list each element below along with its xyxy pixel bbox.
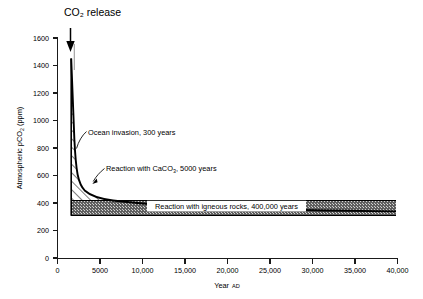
x-axis-title: YearAD [214, 281, 240, 290]
svg-text:Reaction with igneous rocks,: Reaction with igneous rocks, 400,000 yea… [155, 202, 298, 211]
svg-text:1000: 1000 [33, 116, 49, 125]
svg-text:40,000: 40,000 [387, 266, 409, 275]
svg-text:30,000: 30,000 [302, 266, 324, 275]
svg-text:35,000: 35,000 [344, 266, 366, 275]
svg-text:1400: 1400 [33, 61, 49, 70]
svg-text:400: 400 [37, 199, 49, 208]
svg-text:0: 0 [56, 266, 60, 275]
svg-text:0: 0 [45, 254, 49, 263]
co2-release-chart-figure: CO₂ release [0, 0, 423, 299]
svg-text:15,000: 15,000 [174, 266, 196, 275]
y-axis-title: Atmospheric pCO2 (ppm) [15, 107, 25, 190]
annotation-caco3-text: Reaction with CaCO3, 5000 years [106, 164, 217, 174]
svg-text:1200: 1200 [33, 89, 49, 98]
svg-text:20,000: 20,000 [217, 266, 239, 275]
svg-text:5000: 5000 [92, 266, 108, 275]
svg-text:1600: 1600 [33, 34, 49, 43]
svg-text:25,000: 25,000 [259, 266, 281, 275]
svg-text:800: 800 [37, 144, 49, 153]
svg-text:200: 200 [37, 226, 49, 235]
svg-text:600: 600 [37, 171, 49, 180]
svg-text:10,000: 10,000 [132, 266, 154, 275]
chart-canvas: CO₂ release [0, 0, 423, 299]
annotation-igneous-rocks: Reaction with igneous rocks, 400,000 yea… [147, 201, 306, 212]
co2-release-title: CO₂ release [64, 6, 121, 18]
svg-text:Ocean invasion, 300 years: Ocean invasion, 300 years [88, 128, 176, 137]
